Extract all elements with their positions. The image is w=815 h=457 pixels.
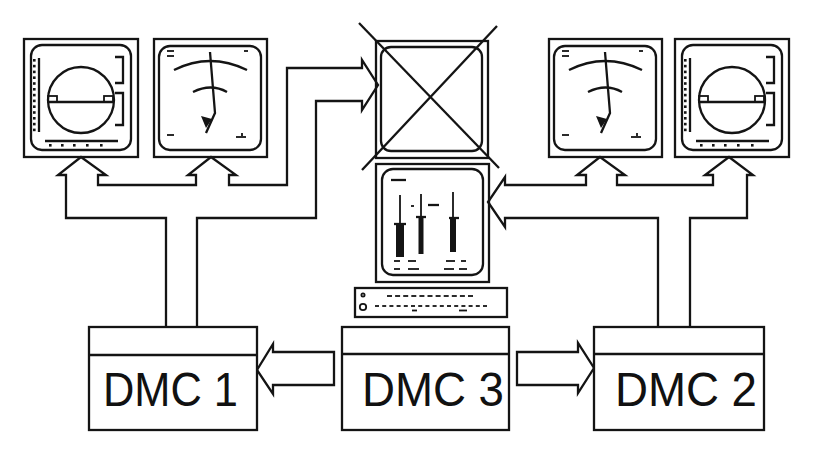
keyboard-control-panel-icon <box>355 288 507 317</box>
dmc2-box: DMC 2 <box>594 327 764 430</box>
dial-gauge-display-icon <box>154 39 267 157</box>
dmc3-to-dmc1-arrow <box>257 344 334 394</box>
attitude-indicator-display-icon <box>24 39 138 157</box>
bar-gauge-display-icon <box>376 164 489 282</box>
dmc3-label: DMC 3 <box>362 362 504 416</box>
dmc1-distribution-arrow <box>58 60 378 327</box>
dmc3-box: DMC 3 <box>342 327 509 430</box>
crossed-out-display-icon <box>359 23 499 170</box>
attitude-indicator-display-icon <box>675 39 789 157</box>
dial-gauge-display-icon <box>549 39 662 157</box>
dmc2-distribution-arrow <box>488 157 753 327</box>
dmc2-label: DMC 2 <box>615 362 757 416</box>
dmc1-box: DMC 1 <box>89 327 257 430</box>
dmc3-to-dmc2-arrow <box>517 343 594 393</box>
dmc-architecture-diagram: DMC 1 DMC 3 DMC 2 <box>0 0 815 457</box>
dmc1-label: DMC 1 <box>103 362 238 416</box>
